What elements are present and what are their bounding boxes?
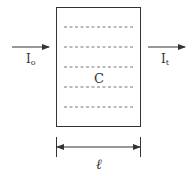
concentration-label: C (94, 71, 104, 86)
dashed-lines (64, 27, 134, 107)
path-length-label: ℓ (96, 156, 102, 172)
incident-subscript: o (31, 58, 36, 67)
transmitted-subscript: t (166, 58, 170, 67)
transmitted-intensity-label: It (161, 52, 170, 67)
incident-intensity-label: Io (26, 52, 36, 67)
absorption-diagram: C Io It ℓ (0, 0, 195, 176)
